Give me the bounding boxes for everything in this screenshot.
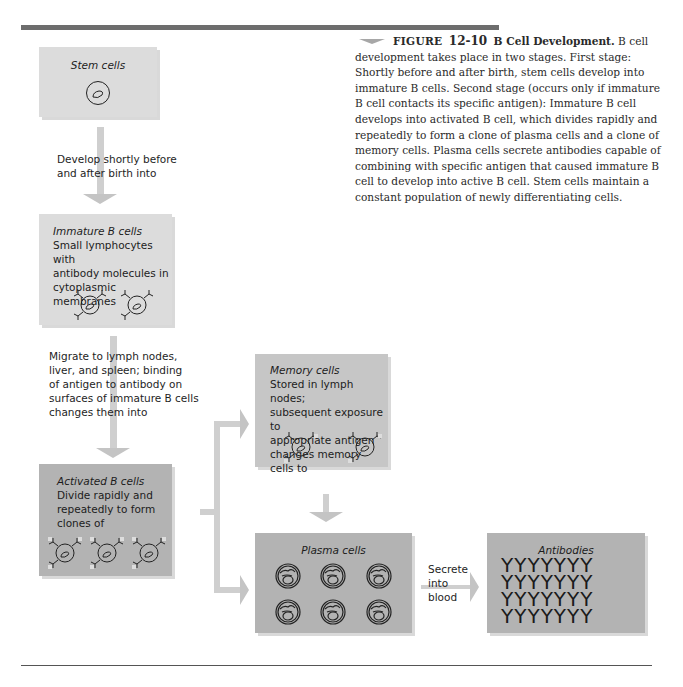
immature-b-cell-icon	[119, 290, 155, 320]
memory-cells-title: Memory cells	[270, 363, 388, 377]
stem-cells-title: Stem cells	[39, 58, 157, 72]
stem-cell-icon	[85, 80, 111, 106]
figure-label: FIGURE	[393, 35, 442, 47]
arrow-down-icon	[96, 448, 130, 458]
bottom-rule	[21, 665, 652, 666]
plasma-cells-title: Plasma cells	[255, 543, 412, 557]
immature-to-activated-label: Migrate to lymph nodes, liver, and splee…	[49, 349, 199, 419]
arrow-right-icon	[240, 575, 249, 605]
immature-b-cells-box: Immature B cells Small lymphocytes with …	[39, 214, 172, 325]
arrow-down-icon	[83, 194, 117, 204]
memory-cell-icon	[347, 430, 383, 464]
activated-branch-vertical	[214, 421, 220, 592]
branch-to-memory	[214, 421, 240, 427]
activated-b-cell-icon	[47, 536, 83, 570]
top-rule	[21, 25, 499, 30]
caption-marker-icon	[359, 39, 385, 44]
immature-b-cells-title: Immature B cells	[53, 224, 172, 238]
arrow-right-icon	[240, 409, 249, 439]
immature-b-cell-icon	[72, 290, 108, 320]
figure-caption: FIGURE 12-10 B Cell Development. B cell …	[355, 34, 670, 206]
antibody-icon-grid: YYYYYYY YYYYYYY YYYYYYY YYYYYYY	[501, 557, 594, 625]
activated-b-cell-icon	[131, 536, 167, 570]
caption-body: B cell development takes place in two st…	[355, 35, 661, 203]
figure-number: 12-10	[449, 34, 487, 48]
activated-b-cells-box: Activated B cells Divide rapidly and rep…	[39, 464, 172, 576]
memory-cell-icon	[283, 430, 319, 464]
memory-to-plasma-connector	[323, 494, 329, 512]
figure-title: B Cell Development.	[494, 35, 615, 47]
arrow-right-icon	[470, 572, 479, 602]
activated-b-cells-title: Activated B cells	[57, 474, 155, 488]
plasma-cell-icon-grid	[255, 561, 412, 633]
plasma-cells-box: Plasma cells	[255, 533, 412, 633]
memory-cells-box: Memory cells Stored in lymph nodes; subs…	[255, 354, 388, 467]
arrow-down-icon	[309, 512, 343, 522]
branch-to-plasma	[214, 587, 240, 593]
secrete-into-blood-label: Secrete into blood	[428, 562, 468, 604]
stem-cells-box: Stem cells	[39, 47, 157, 117]
antibodies-box: Antibodies YYYYYYY YYYYYYY YYYYYYY YYYYY…	[487, 533, 645, 633]
activated-b-cell-icon	[89, 536, 125, 570]
stem-to-immature-label: Develop shortly before and after birth i…	[57, 152, 177, 180]
